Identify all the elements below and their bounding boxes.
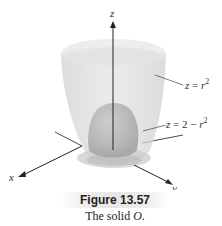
figure: z x y z = r2 z = 2 − r2 Figure 13.57 The…	[0, 0, 222, 226]
z-axis-arrow	[110, 21, 116, 28]
figure-number: Figure 13.57	[60, 192, 170, 208]
y-axis-label: y	[171, 182, 177, 190]
solid-diagram: z x y z = r2 z = 2 − r2	[0, 0, 222, 190]
label-inner-paraboloid: z = 2 − r2	[165, 116, 207, 130]
x-axis	[21, 146, 82, 176]
figure-caption: The solid O.	[60, 209, 170, 223]
x-axis-label: x	[8, 171, 14, 183]
y-axis	[134, 165, 170, 183]
z-axis-label: z	[109, 7, 115, 19]
x-axis-arrow	[18, 171, 26, 177]
label-outer-paraboloid: z = r2	[184, 77, 209, 91]
